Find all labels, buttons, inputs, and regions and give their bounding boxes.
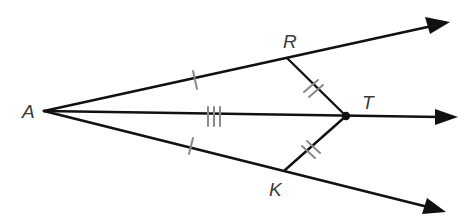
- tick-mark-KT: [302, 141, 320, 158]
- segment-KT: [285, 116, 346, 170]
- segment-RT: [287, 58, 346, 116]
- geometry-diagram: A R T K: [0, 0, 469, 220]
- label-R: R: [283, 31, 297, 52]
- ray-AR: [44, 17, 450, 111]
- arrowhead-icon: [435, 109, 458, 125]
- tick-mark-AT: [208, 107, 220, 126]
- arrowhead-icon: [425, 17, 450, 34]
- tick-mark-AR: [193, 71, 197, 89]
- label-T: T: [362, 92, 375, 113]
- label-K: K: [269, 179, 283, 200]
- arrowhead-icon: [422, 198, 446, 214]
- ray-AT: [44, 109, 458, 125]
- tick-mark-AK: [189, 138, 193, 154]
- ray-AK: [44, 111, 446, 214]
- tick-mark-RT: [304, 80, 323, 97]
- label-A: A: [21, 101, 35, 122]
- point-T-dot: [342, 112, 350, 120]
